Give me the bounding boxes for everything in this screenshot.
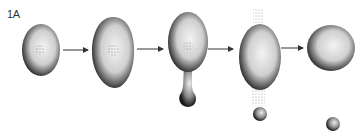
- nucleus-icon: [35, 45, 45, 55]
- released-sphere: [253, 107, 267, 121]
- nucleus-icon: [183, 41, 193, 51]
- nucleus-icon: [107, 44, 119, 56]
- stage-2-cell: [92, 17, 134, 88]
- particle-spray-top: [253, 8, 263, 24]
- stage-4-cell: [239, 8, 281, 121]
- cell-diagram: [0, 0, 360, 138]
- budding-stalk: [179, 68, 196, 107]
- stage-1-cell: [22, 24, 60, 76]
- stage-5-cell: [307, 25, 355, 131]
- separated-sphere: [326, 117, 340, 131]
- stage-3-cell: [168, 12, 208, 107]
